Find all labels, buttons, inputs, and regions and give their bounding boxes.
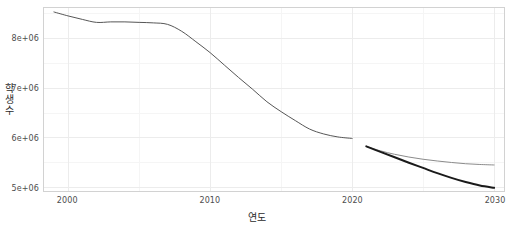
x-tick-label: 2000 — [57, 196, 78, 205]
series-forecast-high — [366, 146, 494, 165]
y-axis-title-char: 수 — [2, 105, 16, 116]
x-tick-label: 2030 — [485, 196, 506, 205]
y-axis-title-char: 생 — [2, 94, 16, 105]
y-axis-title-char: 학 — [2, 83, 16, 94]
x-tick-label: 2010 — [199, 196, 220, 205]
y-tick-label: 8e+06 — [12, 34, 39, 43]
data-series-lines — [44, 8, 504, 191]
x-axis-title: 연도 — [0, 209, 513, 224]
plot-panel — [43, 7, 505, 192]
x-tick-label: 2020 — [342, 196, 363, 205]
series-historical — [54, 12, 352, 138]
y-axis-title: 학생수 — [2, 83, 16, 116]
y-tick-label: 6e+06 — [12, 134, 39, 143]
chart-container: 5e+066e+067e+068e+06 학생수 200020102020203… — [0, 0, 513, 230]
x-axis-tick-labels: 2000201020202030 — [0, 196, 513, 210]
y-tick-label: 5e+06 — [12, 184, 39, 193]
